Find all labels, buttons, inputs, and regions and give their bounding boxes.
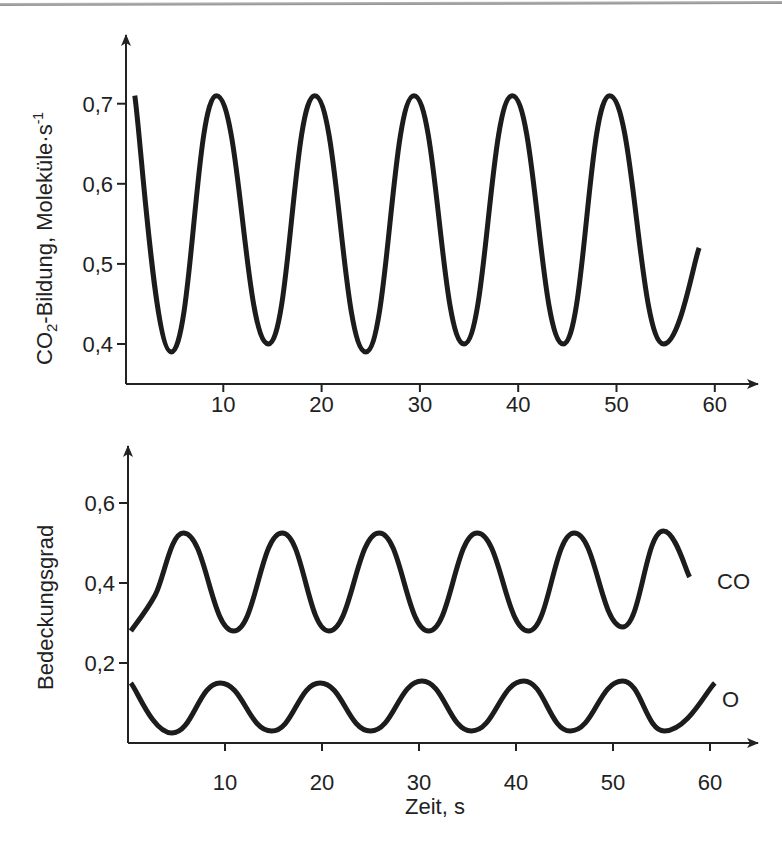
o-coverage-curve: [131, 681, 715, 733]
co2-chart: CO2-Bildung, Moleküle·s-1 1020304050600,…: [30, 35, 758, 417]
co-coverage-curve: [131, 531, 690, 631]
x-tick-label: 10: [211, 392, 235, 417]
y-tick-label: 0,7: [82, 92, 113, 117]
x-axis-title: Zeit, s: [405, 794, 465, 819]
co2-y-title-sup: -1: [30, 112, 46, 125]
x-tick-label: 40: [506, 392, 530, 417]
x-tick-label: 60: [698, 770, 722, 795]
co2-y-title-mid: -Bildung, Moleküle·s: [32, 124, 57, 323]
x-tick-label: 50: [604, 392, 628, 417]
co-series-label: CO: [717, 569, 750, 594]
co2-axes: 1020304050600,40,50,60,7: [82, 35, 758, 417]
coverage-y-axis-title: Bedeckungsgrad: [33, 525, 58, 690]
x-tick-label: 50: [601, 770, 625, 795]
x-tick-label: 60: [703, 392, 727, 417]
co2-curve: [135, 96, 699, 352]
co2-y-axis-title: CO2-Bildung, Moleküle·s-1: [30, 112, 60, 365]
y-tick-label: 0,5: [82, 252, 113, 277]
o-series-label: O: [722, 687, 739, 712]
y-tick-label: 0,4: [84, 571, 115, 596]
x-tick-label: 10: [213, 770, 237, 795]
co2-y-title-pre: CO: [32, 332, 57, 365]
x-tick-label: 20: [309, 392, 333, 417]
coverage-chart: Bedeckungsgrad 1020304050600,20,40,6 CO …: [33, 446, 758, 819]
figure: CO2-Bildung, Moleküle·s-1 1020304050600,…: [0, 0, 782, 842]
co2-y-title-sub: 2: [43, 324, 60, 332]
y-tick-label: 0,6: [82, 172, 113, 197]
y-tick-label: 0,2: [84, 651, 115, 676]
coverage-axes: 1020304050600,20,40,6: [84, 446, 758, 795]
x-tick-label: 20: [310, 770, 334, 795]
x-tick-label: 30: [408, 392, 432, 417]
y-tick-label: 0,6: [84, 491, 115, 516]
y-tick-label: 0,4: [82, 332, 113, 357]
x-tick-label: 40: [504, 770, 528, 795]
x-tick-label: 30: [407, 770, 431, 795]
